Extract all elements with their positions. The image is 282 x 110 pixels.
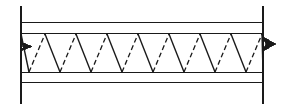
web-member-solid <box>107 34 122 72</box>
web-member-solid <box>21 34 29 72</box>
right-break-symbol <box>263 6 276 104</box>
web-member-dashed <box>215 34 231 72</box>
web-member-dashed <box>29 34 45 72</box>
web-member-solid <box>262 34 263 72</box>
web-member-solid <box>231 34 246 72</box>
bottom-chord <box>21 73 263 83</box>
joist-elevation-figure <box>0 0 282 110</box>
web-member-dashed <box>246 34 262 72</box>
web-member-solid <box>200 34 215 72</box>
web-member-dashed <box>184 34 200 72</box>
web-member-solid <box>76 34 91 72</box>
web-member-dashed <box>60 34 76 72</box>
web-member-dashed <box>122 34 138 72</box>
left-break-symbol <box>21 6 32 104</box>
web-member-solid <box>138 34 153 72</box>
joist-drawing-canvas <box>0 0 282 110</box>
web-member-solid <box>45 34 60 72</box>
top-chord <box>21 23 263 34</box>
web-member-group <box>21 34 263 72</box>
right-break-arrow-icon <box>263 37 276 51</box>
web-member-dashed <box>91 34 107 72</box>
web-member-solid <box>169 34 184 72</box>
web-member-dashed <box>153 34 169 72</box>
